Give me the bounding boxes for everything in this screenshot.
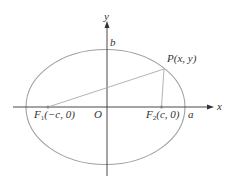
- y-axis-arrow-icon: [105, 21, 110, 28]
- ellipse-diagram: y x b a O P(x, y) F1(−c, 0) F2(c, 0): [0, 0, 230, 188]
- focus-f1-label: F1(−c, 0): [33, 108, 75, 122]
- y-axis-label: y: [103, 10, 109, 22]
- segment-f1-p: [48, 69, 164, 107]
- x-axis-arrow-icon: [207, 105, 214, 110]
- origin-label: O: [94, 108, 102, 120]
- point-p-label: P(x, y): [166, 52, 197, 65]
- focus-f2-label: F2(c, 0): [145, 108, 180, 122]
- x-axis-label: x: [216, 100, 222, 112]
- vertex-label-a: a: [188, 108, 194, 120]
- segment-f2-p: [162, 69, 165, 107]
- co-vertex-label-b: b: [110, 36, 116, 48]
